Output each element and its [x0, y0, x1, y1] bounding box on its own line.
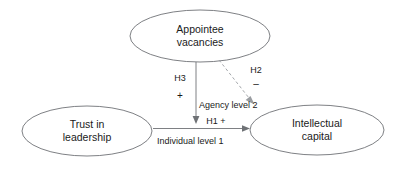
edge-h1-arrowhead [242, 125, 250, 132]
edge-label-h3: H3 [174, 73, 186, 83]
edge-h1 [153, 125, 250, 132]
node-trust-in-leadership-line1: Trust in [70, 118, 105, 130]
diagram-canvas: Appointee vacancies Trust in leadership … [0, 0, 410, 169]
node-intellectual-capital-line2: capital [302, 130, 332, 142]
node-appointee-vacancies-line1: Appointee [176, 23, 223, 35]
edge-h3-arrowhead [193, 116, 200, 124]
path-model-diagram: Appointee vacancies Trust in leadership … [0, 0, 410, 169]
edge-h3 [193, 62, 200, 124]
node-intellectual-capital[interactable]: Intellectual capital [250, 105, 384, 155]
node-trust-in-leadership-line2: leadership [63, 131, 112, 143]
edge-sign-h2: – [253, 78, 259, 89]
edge-h2-line [219, 60, 249, 98]
node-trust-in-leadership[interactable]: Trust in leadership [22, 106, 152, 156]
level-label-agency: Agency level 2 [199, 100, 258, 110]
edge-h2 [219, 60, 255, 105]
level-label-individual: Individual level 1 [157, 136, 224, 146]
edge-sign-h3: + [177, 90, 183, 101]
node-intellectual-capital-line1: Intellectual [292, 117, 342, 129]
edge-label-h2: H2 [250, 65, 262, 75]
node-appointee-vacancies[interactable]: Appointee vacancies [130, 10, 270, 62]
edge-label-h1: H1 + [206, 116, 225, 126]
node-appointee-vacancies-line2: vacancies [177, 36, 224, 48]
